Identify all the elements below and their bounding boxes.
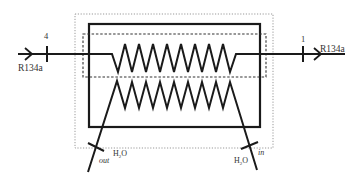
refrigerant-outlet-label: R134a — [320, 44, 346, 54]
state-1-label: 1 — [301, 34, 305, 44]
exchanger-shell — [89, 24, 260, 127]
water-outlet-direction: out — [99, 156, 110, 165]
heat-exchanger-diagram: 4 R134a 1 R134a H2O out H2O in — [0, 0, 362, 182]
refrigerant-coil — [18, 44, 345, 72]
refrigerant-inlet-label: R134a — [18, 63, 44, 73]
water-outlet-label: H2O — [113, 149, 127, 159]
state-4-label: 4 — [44, 31, 49, 41]
water-inlet-label: H2O — [234, 156, 248, 166]
water-inlet-direction: in — [258, 148, 264, 157]
